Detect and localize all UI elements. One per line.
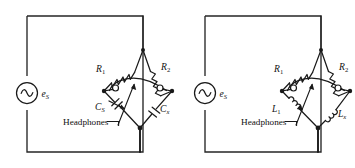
component-lx-right-circuit (318, 91, 350, 128)
headphones-label-connector (285, 122, 297, 126)
ac-source-left (17, 83, 38, 104)
cs-lead-a (104, 91, 115, 102)
headphone-earpiece-right-icon (335, 85, 341, 91)
headphone-earpiece-left-icon (291, 85, 297, 91)
r1-lead-b (135, 50, 143, 72)
r2-lead-a (321, 50, 329, 72)
r1-lead-b (313, 50, 321, 72)
circuit-capacitance-bridge: eS R1 R2 (17, 16, 175, 152)
source-label-right: eS (220, 88, 228, 100)
label-r2-right-circuit: R2 (338, 61, 348, 73)
detector-headphones-right-circuit (282, 78, 350, 91)
label-r2-left-circuit: R2 (160, 61, 170, 73)
cs-lead-b (119, 105, 140, 128)
headphone-earpiece-right-icon (157, 85, 163, 91)
l1-lead-a (282, 91, 289, 98)
lx-coil (326, 110, 338, 122)
detector-headphones-left-circuit (104, 78, 172, 91)
label-headphones-left-circuit: Headphones (63, 117, 109, 127)
component-r1-left-circuit (104, 50, 143, 91)
label-cs-left-circuit: CS (95, 101, 105, 113)
label-headphones-right-circuit: Headphones (241, 117, 287, 127)
l1-lead-b (300, 109, 319, 128)
label-r1-left-circuit: R1 (95, 63, 105, 75)
r2-lead-a (143, 50, 151, 72)
headphone-earpiece-left-icon (113, 85, 119, 91)
outer-loop-right (205, 16, 321, 152)
lx-lead-a (318, 121, 326, 129)
source-label-left: eS (42, 88, 50, 100)
ac-source-right (195, 83, 216, 104)
headphones-label-connector (107, 122, 119, 126)
label-cx-left-circuit: Cx (160, 103, 169, 115)
circuit-figure: eS R1 R2 (0, 0, 355, 168)
component-cs-left-circuit (104, 91, 140, 128)
label-l1-right-circuit: L1 (271, 103, 281, 115)
component-l1-right-circuit (282, 91, 318, 128)
component-r1-right-circuit (282, 50, 321, 91)
circuit-inductance-bridge: eS R1 R2 (195, 16, 353, 152)
figure-root: eS R1 R2 (0, 0, 355, 168)
cx-lead-a (140, 115, 152, 129)
outer-loop-left (27, 16, 143, 152)
label-lx-right-circuit: Lx (337, 108, 346, 120)
label-r1-right-circuit: R1 (273, 63, 283, 75)
